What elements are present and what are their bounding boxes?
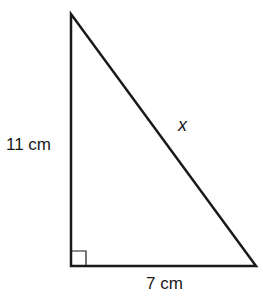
height-label: 11 cm [6,135,51,155]
hypotenuse-label: x [178,115,187,136]
right-angle-marker [71,251,86,266]
base-label: 7 cm [146,274,183,294]
right-triangle [71,14,256,266]
